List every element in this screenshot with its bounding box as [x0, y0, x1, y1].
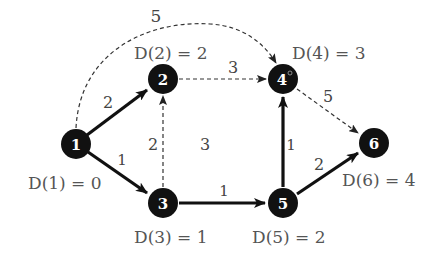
edge-weight-4-6: 5 — [323, 87, 333, 106]
shortest-path-diagram: 5 2 1 3 2 3 1 1 5 2 1 — [0, 0, 447, 265]
edge-weight-3-5: 1 — [219, 182, 229, 200]
node-label: 6 — [369, 135, 379, 153]
node-6: 6 — [359, 128, 389, 158]
face-label: 3 — [200, 135, 210, 154]
edge-weight-5-4: 1 — [286, 136, 296, 154]
node-2: 2 — [148, 64, 178, 94]
node-label: 3 — [158, 195, 168, 213]
distance-label-2: D(2) = 2 — [134, 43, 208, 63]
edge-weight-3-2: 2 — [148, 135, 158, 154]
node-5: 5 — [268, 188, 298, 218]
node-3: 3 — [148, 188, 178, 218]
distance-label-6: D(6) = 4 — [342, 170, 416, 190]
node-label: 5 — [278, 195, 288, 213]
edge-weight-1-3: 1 — [117, 151, 127, 169]
edge-weight-5-6: 2 — [314, 155, 324, 174]
edge-weight-1-4: 5 — [151, 6, 162, 26]
edge-3-5: 1 — [179, 182, 265, 203]
node-1: 1 — [61, 129, 91, 159]
node-label: 2 — [158, 71, 168, 89]
edge-3-2: 2 — [148, 96, 163, 187]
node-label: 1 — [71, 136, 81, 154]
edge-4-6: 5 — [297, 87, 358, 133]
edge-weight-2-4: 3 — [228, 58, 238, 77]
edge-1-2: 2 — [87, 90, 147, 135]
node-4: 4 — [268, 64, 298, 94]
edge-weight-1-2: 2 — [103, 93, 113, 112]
distance-label-4: D(4) = 3 — [292, 43, 366, 63]
distance-label-1: D(1) = 0 — [28, 173, 102, 193]
edge-5-4: 1 — [283, 97, 296, 187]
distance-label-5: D(5) = 2 — [252, 227, 326, 247]
distance-label-3: D(3) = 1 — [134, 227, 208, 247]
node-label: 4 — [277, 71, 287, 89]
